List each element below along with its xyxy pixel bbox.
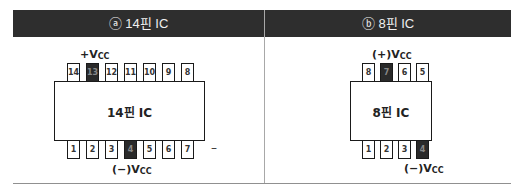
pin-8: 8 — [181, 63, 194, 82]
pin-8: 8 — [362, 63, 375, 82]
ic-body-8pin: 8핀 IC — [350, 81, 432, 141]
pin-3: 3 — [398, 140, 411, 159]
pin-1: 1 — [67, 140, 80, 159]
pin-12: 12 — [105, 63, 118, 82]
pin-10: 10 — [143, 63, 156, 82]
vcc-minus-label-14pin: (−)VCC — [112, 163, 152, 176]
vcc-plus-label-8pin: (+)VCC — [372, 48, 412, 61]
dash-mark: – — [211, 141, 217, 155]
pin-6: 6 — [162, 140, 175, 159]
pin-7: 7 — [181, 140, 194, 159]
pin-13-vcc: 13 — [86, 63, 99, 82]
pin-4-gnd: 4 — [124, 140, 137, 159]
pin-7-vcc: 7 — [380, 63, 393, 82]
pin-2: 2 — [86, 140, 99, 159]
pin-2: 2 — [380, 140, 393, 159]
vcc-minus-label-8pin: (−)VCC — [404, 162, 444, 175]
panel-divider — [264, 10, 265, 184]
panel-header-14pin: ⓐ 14핀 IC — [13, 10, 264, 37]
ic-body-14pin: 14핀 IC — [54, 81, 205, 141]
pin-9: 9 — [162, 63, 175, 82]
pin-14: 14 — [67, 63, 80, 82]
pin-3: 3 — [105, 140, 118, 159]
pin-6: 6 — [398, 63, 411, 82]
pin-4-gnd: 4 — [416, 140, 429, 159]
pin-11: 11 — [124, 63, 137, 82]
bottom-rule — [13, 183, 511, 184]
pin-5: 5 — [143, 140, 156, 159]
pin-5: 5 — [416, 63, 429, 82]
pin-1: 1 — [362, 140, 375, 159]
vcc-plus-label-14pin: +VCC — [80, 48, 109, 61]
panel-header-8pin: ⓑ 8핀 IC — [265, 10, 511, 37]
